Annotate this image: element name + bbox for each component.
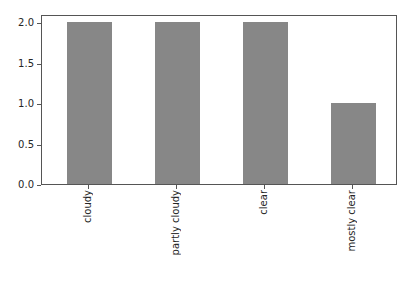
bar-mostly-clear: [331, 103, 376, 184]
x-tick-label-cloudy: cloudy: [82, 190, 94, 223]
plot-area: [41, 15, 397, 185]
bar-chart-figure: cloudypartly cloudyclearmostly clear0.00…: [0, 0, 411, 285]
y-tick: [37, 23, 41, 24]
y-tick-label-1.0: 1.0: [0, 97, 34, 111]
y-tick: [37, 185, 41, 186]
y-tick: [37, 104, 41, 105]
x-tick: [352, 185, 353, 189]
x-tick: [176, 185, 177, 189]
x-tick-label-partly-cloudy: partly cloudy: [170, 190, 182, 255]
y-tick-label-0.5: 0.5: [0, 138, 34, 152]
x-tick-label-clear: clear: [258, 190, 270, 215]
y-tick-label-2.0: 2.0: [0, 16, 34, 30]
x-tick: [264, 185, 265, 189]
bar-clear: [243, 22, 288, 184]
y-tick-label-0.0: 0.0: [0, 178, 34, 192]
x-tick: [88, 185, 89, 189]
x-tick-label-mostly-clear: mostly clear: [346, 190, 358, 252]
y-tick-label-1.5: 1.5: [0, 57, 34, 71]
y-tick: [37, 145, 41, 146]
y-tick: [37, 64, 41, 65]
bar-cloudy: [67, 22, 112, 184]
bar-partly-cloudy: [155, 22, 200, 184]
